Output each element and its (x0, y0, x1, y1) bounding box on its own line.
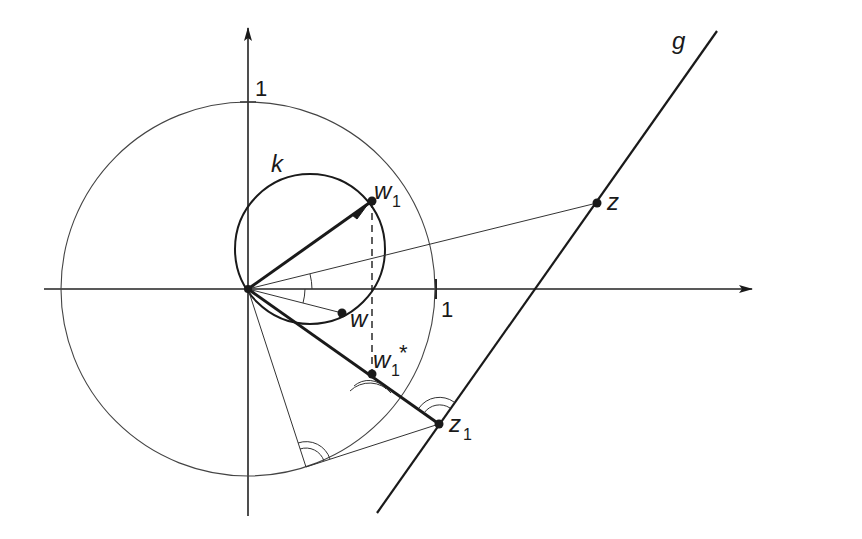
point-w1-star-label: w (373, 346, 392, 373)
ray-o-w (248, 289, 342, 313)
angle-arc-z (310, 274, 312, 289)
axes (44, 28, 752, 516)
vector-o-w1-arrow (352, 204, 368, 219)
line-g (377, 31, 717, 513)
line-g-label: g (672, 27, 686, 54)
point-w1-subscript: 1 (392, 193, 401, 210)
point-w1-star-superscript: * (399, 340, 408, 365)
point-z-label: z (606, 188, 619, 215)
point-w1-label: w (374, 177, 393, 204)
point-w-label: w (350, 305, 369, 332)
point-z (593, 199, 602, 208)
point-z1-label: z (448, 410, 461, 437)
segment-tangent-z1 (306, 424, 439, 467)
points (244, 197, 602, 429)
point-origin (244, 285, 252, 293)
right-angle-z1-inner (424, 405, 450, 413)
angle-arc-w (303, 289, 305, 303)
circle-k-label: k (271, 150, 285, 177)
point-w (338, 309, 347, 318)
circle-k (235, 174, 385, 324)
right-angle-z1-outer (419, 397, 454, 408)
y-axis-tick-label: 1 (255, 76, 267, 101)
diagram-canvas: 1 1 k g z w w 1 w 1 * z 1 (0, 0, 862, 539)
right-angle-marks (298, 380, 454, 461)
thin-rays (248, 203, 597, 467)
point-z1 (435, 420, 444, 429)
x-axis-tick-label: 1 (441, 297, 453, 322)
point-z1-subscript: 1 (463, 426, 472, 443)
